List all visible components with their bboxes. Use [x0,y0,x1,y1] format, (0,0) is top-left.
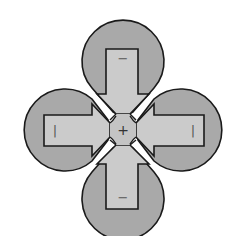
center-label: + [117,122,129,138]
diagram-stage: − | | − + [0,0,237,236]
bottom-lobe-label: − [118,190,129,205]
top-lobe-label: − [118,51,129,66]
left-lobe-label: | [53,123,57,138]
left-lobe [24,89,110,171]
right-lobe-label: | [191,123,195,138]
quadrupole-diagram: − | | − + [0,0,237,236]
right-lobe [136,89,222,171]
